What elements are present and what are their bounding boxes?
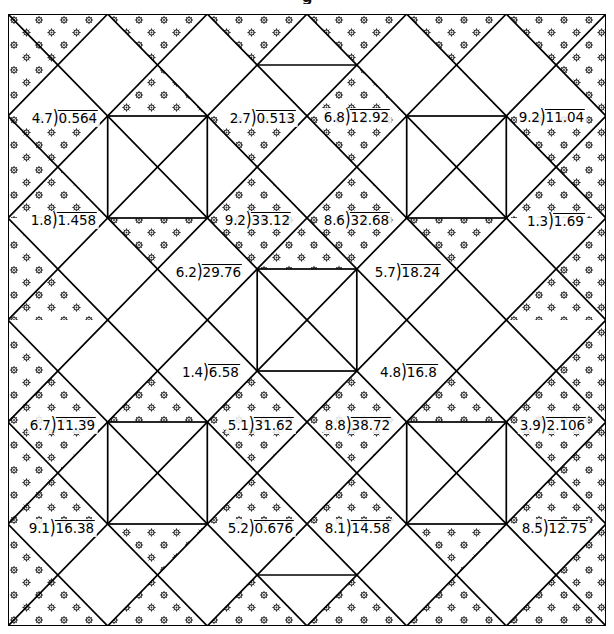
divisor: 6.7	[30, 417, 51, 433]
division-bracket-icon: )	[51, 416, 57, 435]
division-problem: 6.7)11.39	[28, 416, 98, 434]
divisor: 8.6	[324, 212, 345, 228]
dividend: 12.92	[350, 109, 391, 125]
division-problem: 8.5)12.75	[520, 519, 590, 537]
dividend: 0.513	[256, 110, 297, 126]
divisor: 6.2	[176, 264, 197, 280]
dividend: 14.58	[351, 520, 392, 536]
divisor: 6.8	[324, 109, 345, 125]
divisor: 8.5	[522, 520, 543, 536]
division-problem: 4.8)16.8	[378, 363, 440, 381]
dividend: 33.12	[251, 212, 292, 228]
division-bracket-icon: )	[543, 519, 549, 538]
dividend: 31.62	[254, 417, 295, 433]
divisor: 8.8	[325, 417, 346, 433]
dividend: 6.58	[208, 364, 240, 380]
dividend: 2.106	[546, 417, 587, 433]
division-bracket-icon: )	[52, 211, 58, 230]
division-problem: 1.4)6.58	[180, 363, 242, 381]
divisor: 9.2	[225, 212, 246, 228]
division-problem: 5.1)31.62	[226, 416, 296, 434]
dividend: 38.72	[351, 417, 392, 433]
division-problem: 5.7)18.24	[373, 263, 443, 281]
quilt-diagram	[8, 14, 606, 626]
division-problem: 8.1)14.58	[323, 519, 393, 537]
dividend: 11.04	[545, 109, 586, 125]
division-problem: 6.2)29.76	[174, 263, 244, 281]
division-bracket-icon: )	[251, 109, 257, 128]
divisor: 9.2	[519, 109, 540, 125]
dividend: 0.564	[58, 110, 99, 126]
dividend: 29.76	[202, 264, 243, 280]
division-bracket-icon: )	[396, 263, 402, 282]
divisor: 1.8	[31, 212, 52, 228]
divisor: 8.1	[325, 520, 346, 536]
dividend: 0.676	[254, 520, 295, 536]
dividend: 11.39	[56, 417, 97, 433]
divisor: 4.7	[32, 110, 53, 126]
division-bracket-icon: )	[541, 416, 547, 435]
division-problem: 6.8)12.92	[322, 108, 392, 126]
division-bracket-icon: )	[50, 519, 56, 538]
dividend: 12.75	[548, 520, 589, 536]
divisor: 5.1	[228, 417, 249, 433]
division-bracket-icon: )	[346, 416, 352, 435]
division-problem: 5.2)0.676	[226, 519, 296, 537]
division-bracket-icon: )	[246, 211, 252, 230]
divisor: 9.1	[29, 520, 50, 536]
divisor: 3.9	[520, 417, 541, 433]
division-problem: 3.9)2.106	[518, 416, 588, 434]
page-title: g	[0, 0, 614, 4]
divisor: 1.4	[182, 364, 203, 380]
division-problem: 1.3)1.69	[525, 212, 587, 230]
division-problem: 9.2)33.12	[223, 211, 293, 229]
division-bracket-icon: )	[540, 108, 546, 127]
divisor: 5.7	[375, 264, 396, 280]
division-problem: 9.2)11.04	[517, 108, 587, 126]
division-bracket-icon: )	[249, 519, 255, 538]
division-problem: 9.1)16.38	[27, 519, 97, 537]
dividend: 16.38	[55, 520, 96, 536]
division-bracket-icon: )	[401, 363, 407, 382]
dividend: 16.8	[406, 364, 438, 380]
division-problem: 8.8)38.72	[323, 416, 393, 434]
divisor: 1.3	[527, 213, 548, 229]
divisor: 4.8	[380, 364, 401, 380]
division-bracket-icon: )	[548, 212, 554, 231]
worksheet-page: g	[0, 0, 614, 634]
division-problem: 2.7)0.513	[228, 109, 298, 127]
divisor: 2.7	[230, 110, 251, 126]
dividend: 18.24	[401, 264, 442, 280]
division-bracket-icon: )	[346, 519, 352, 538]
division-bracket-icon: )	[345, 211, 351, 230]
dividend: 1.69	[553, 213, 585, 229]
dividend: 1.458	[57, 212, 98, 228]
division-bracket-icon: )	[203, 363, 209, 382]
quilt-svg	[8, 14, 606, 626]
division-bracket-icon: )	[197, 263, 203, 282]
division-bracket-icon: )	[53, 109, 59, 128]
division-problem: 4.7)0.564	[30, 109, 100, 127]
dividend: 32.68	[350, 212, 391, 228]
division-bracket-icon: )	[249, 416, 255, 435]
division-problem: 1.8)1.458	[29, 211, 99, 229]
division-bracket-icon: )	[345, 108, 351, 127]
division-problem: 8.6)32.68	[322, 211, 392, 229]
divisor: 5.2	[228, 520, 249, 536]
